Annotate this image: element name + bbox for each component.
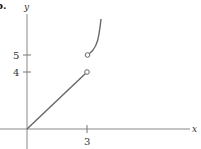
open-circle-3-5 (85, 53, 90, 58)
panel-label: b. (0, 0, 6, 11)
y-tick-label-5: 5 (13, 50, 19, 61)
linear-segment (27, 74, 85, 129)
piecewise-function-graph: b. y x 5 4 3 (0, 0, 201, 149)
x-tick-label-3: 3 (84, 136, 90, 147)
y-tick-label-4: 4 (13, 67, 19, 78)
open-circle-3-4 (85, 70, 90, 75)
y-axis-label: y (23, 2, 30, 12)
curve-segment (89, 19, 101, 54)
x-axis-label: x (192, 124, 197, 134)
